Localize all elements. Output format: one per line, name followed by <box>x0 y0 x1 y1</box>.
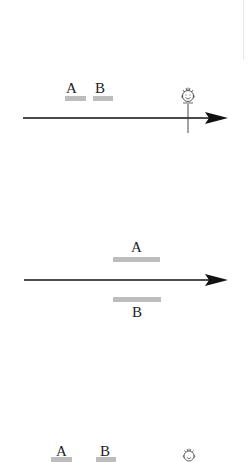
page-edge-divider <box>243 0 244 60</box>
smiley-observer-icon <box>0 0 248 462</box>
